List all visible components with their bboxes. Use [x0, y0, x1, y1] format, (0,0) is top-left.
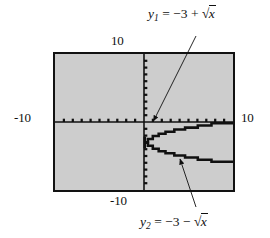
equation-label-y2: y2 = −3 − √x [140, 214, 208, 231]
x-axis-min-label: -10 [14, 110, 31, 126]
x-axis-max-label: 10 [241, 110, 254, 126]
equation-y2-radicand: x [201, 213, 208, 229]
figure-container: 10 -10 -10 10 y1 = −3 + √x y2 = −3 − √x [0, 0, 270, 238]
y-axis-max-label: 10 [111, 33, 124, 49]
equation-y1-constant: −3 [173, 6, 187, 21]
equation-y1-subscript: 1 [154, 13, 159, 23]
y-axis-min-label: -10 [110, 193, 127, 209]
equation-y1-radicand: x [209, 5, 216, 21]
curve-y2-lower-branch [144, 142, 233, 161]
plot-viewport [53, 52, 235, 192]
curve-y1-upper-branch [144, 123, 233, 142]
equation-y2-constant: −3 [165, 214, 179, 229]
equation-y2-subscript: 2 [146, 221, 151, 231]
equation-y1-operator: + [191, 6, 199, 21]
equation-label-y1: y1 = −3 + √x [148, 6, 216, 23]
equation-y2-operator: − [183, 214, 191, 229]
plot-canvas [55, 54, 233, 190]
equation-y1-equals: = [162, 6, 170, 21]
equation-y2-equals: = [154, 214, 162, 229]
